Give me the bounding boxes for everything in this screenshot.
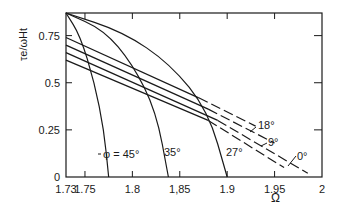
- x-axis-label: Ω: [271, 191, 280, 205]
- x-tick-label: 1.9: [220, 183, 235, 195]
- line-dashed: [199, 98, 256, 126]
- chart: 1.731.751.81,851.91.952 00.250.50.75 τe/…: [0, 0, 339, 214]
- label-phi-9: 9°: [268, 136, 279, 148]
- y-tick-label: 0.25: [39, 124, 60, 136]
- line-solid: [66, 53, 218, 121]
- x-tick-label: 1.8: [125, 183, 140, 195]
- y-tick-label: 0: [54, 171, 60, 183]
- x-tick-label: 2: [319, 183, 325, 195]
- label-phi-18: 18°: [258, 119, 275, 131]
- y-tick-label: 0.5: [45, 77, 60, 89]
- label-phi-45: φ = 45°: [103, 148, 139, 160]
- y-axis-label: τe/ωHt: [17, 28, 29, 61]
- y-axis-ticks: 00.250.50.75: [39, 30, 322, 183]
- leader-9: [261, 143, 267, 146]
- label-phi-35: 35°: [164, 146, 181, 158]
- leader-18: [250, 127, 256, 132]
- x-tick-label: 1.75: [74, 183, 95, 195]
- label-phi-27: 27°: [226, 146, 243, 158]
- y-tick-label: 0.75: [39, 30, 60, 42]
- x-tick-label: 1,85: [169, 183, 190, 195]
- x-axis-ticks: 1.731.751.81,851.91.952: [55, 13, 325, 195]
- label-phi-0: 0°: [297, 150, 308, 162]
- line-solid: [66, 45, 208, 109]
